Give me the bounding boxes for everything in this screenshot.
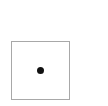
die[interactable]: 1 bbox=[11, 41, 70, 100]
die-pip-center bbox=[37, 67, 44, 74]
game-canvas: 1 bbox=[0, 0, 108, 106]
